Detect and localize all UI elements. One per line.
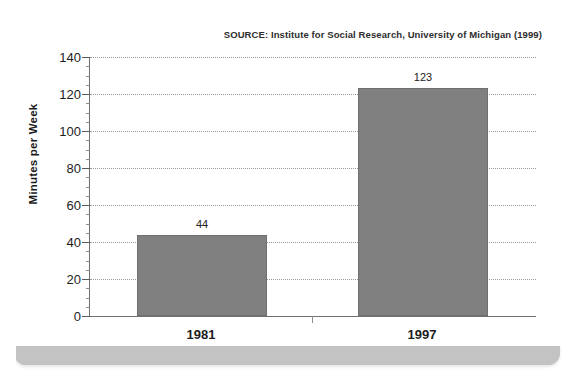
y-axis-tick <box>82 168 90 169</box>
y-axis-tick <box>82 279 90 280</box>
plot-area: 44123 <box>89 57 536 317</box>
y-axis-tick-label: 60 <box>47 198 81 213</box>
y-axis-minor-tick <box>86 298 90 299</box>
y-axis-minor-tick <box>86 224 90 225</box>
y-axis-tick <box>82 57 90 58</box>
y-axis-minor-tick <box>86 307 90 308</box>
y-axis-tick <box>82 205 90 206</box>
y-axis-tick-label: 120 <box>47 87 81 102</box>
y-axis-tick <box>82 242 90 243</box>
y-axis-minor-tick <box>86 177 90 178</box>
x-axis-category-label: 1997 <box>408 327 437 342</box>
y-axis-tick-label: 0 <box>47 309 81 324</box>
y-axis-minor-tick <box>86 85 90 86</box>
y-axis-minor-tick <box>86 140 90 141</box>
y-axis-minor-tick <box>86 261 90 262</box>
y-axis-tick-label: 20 <box>47 272 81 287</box>
x-axis-category-label: 1981 <box>187 327 216 342</box>
y-axis-minor-tick <box>86 76 90 77</box>
y-axis-tick <box>82 316 90 317</box>
y-axis-minor-tick <box>86 251 90 252</box>
paper-margin-left <box>0 0 16 391</box>
bar <box>358 88 488 316</box>
y-axis-tick <box>82 94 90 95</box>
y-axis-minor-tick <box>86 66 90 67</box>
bar <box>137 235 267 316</box>
y-axis-minor-tick <box>86 150 90 151</box>
y-axis-tick-labels: 020406080100120140 <box>45 57 81 316</box>
y-axis-minor-tick <box>86 113 90 114</box>
y-axis-tick-label: 80 <box>47 161 81 176</box>
y-axis-tick-label: 100 <box>47 124 81 139</box>
y-axis-minor-tick <box>86 214 90 215</box>
x-axis-tick <box>312 316 313 323</box>
source-note: SOURCE: Institute for Social Research, U… <box>222 29 542 40</box>
y-axis-minor-tick <box>86 187 90 188</box>
y-axis-tick-label: 140 <box>47 50 81 65</box>
y-axis-title: Minutes per Week <box>27 74 39 234</box>
y-axis-minor-tick <box>86 270 90 271</box>
y-axis-minor-tick <box>86 159 90 160</box>
y-axis-minor-tick <box>86 288 90 289</box>
paper-margin-top <box>0 0 581 10</box>
y-axis-minor-tick <box>86 122 90 123</box>
chart-figure: SOURCE: Institute for Social Research, U… <box>0 0 581 391</box>
y-axis-tick-label: 40 <box>47 235 81 250</box>
y-axis-minor-tick <box>86 196 90 197</box>
y-axis-tick <box>82 131 90 132</box>
y-axis-minor-tick <box>86 103 90 104</box>
bar-value-label: 123 <box>393 71 453 83</box>
bar-value-label: 44 <box>172 218 232 230</box>
gridline <box>90 57 536 58</box>
y-axis-minor-tick <box>86 233 90 234</box>
